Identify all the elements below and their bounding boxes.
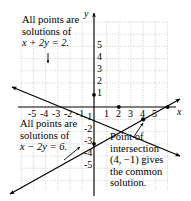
- marker-6-0: [166, 105, 170, 109]
- y-axis-label: y: [84, 8, 88, 19]
- annotation-intersection-line1: Point of: [110, 131, 163, 143]
- annotation-upper-left-line1: All points are: [22, 14, 79, 26]
- annotation-upper-left-line2: solutions of: [22, 26, 79, 38]
- annotation-intersection-line2: intersection: [110, 143, 163, 155]
- x-tick-label: 2: [116, 109, 121, 119]
- annotation-lower-left-line2: solutions of: [20, 130, 77, 142]
- annotation-intersection: Point of intersection (4, −1) gives the …: [110, 131, 163, 189]
- x-tick-label: 1: [104, 109, 109, 119]
- annotation-lower-left-line1: All points are: [20, 118, 77, 130]
- annotation-intersection-line5: solution.: [110, 177, 163, 189]
- annotation-lower-left-equation: x − 2y = 6.: [20, 141, 77, 153]
- y-tick-label: 4: [97, 52, 102, 62]
- y-tick-label: 3: [97, 64, 102, 74]
- marker-0-1: [92, 93, 96, 97]
- y-tick-label: -1: [84, 112, 92, 122]
- y-tick-label: 1: [97, 88, 102, 98]
- annotation-upper-left: All points are solutions of x + 2y = 2.: [22, 14, 79, 49]
- y-tick-label: -5: [84, 160, 92, 170]
- y-tick-label: -4: [84, 148, 92, 158]
- x-tick-label: 5: [152, 109, 157, 119]
- y-tick-label: -2: [84, 124, 92, 134]
- y-tick-label: 5: [97, 40, 102, 50]
- marker-0-neg3: [92, 142, 96, 146]
- x-tick-label: 4: [140, 109, 145, 119]
- system-of-equations-figure: y x -5 -4 -3 -2 -1 1 2 3 4 5 5 4 3 2 1 -…: [0, 0, 191, 201]
- y-tick-label: -3: [84, 136, 92, 146]
- annotation-intersection-line4: the common: [110, 166, 163, 178]
- annotation-upper-left-equation: x + 2y = 2.: [22, 37, 79, 49]
- annotation-intersection-line3: (4, −1) gives: [110, 154, 163, 166]
- y-tick-label: 2: [97, 76, 102, 86]
- x-tick-label: 3: [128, 109, 133, 119]
- x-axis-label: x: [177, 106, 181, 117]
- annotation-lower-left: All points are solutions of x − 2y = 6.: [20, 118, 77, 153]
